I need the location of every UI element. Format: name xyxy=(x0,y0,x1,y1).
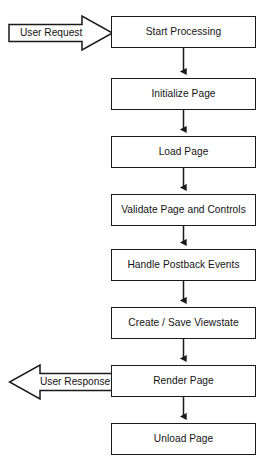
user-request-arrow: User Request xyxy=(8,14,114,52)
node-label: Start Processing xyxy=(146,27,222,37)
user-request-label: User Request xyxy=(20,28,82,38)
flowchart-diagram: User Request User Response Start Process… xyxy=(0,0,270,461)
node-start-processing: Start Processing xyxy=(111,16,256,48)
node-label: Handle Postback Events xyxy=(127,260,239,270)
node-unload-page: Unload Page xyxy=(111,423,256,455)
user-response-label: User Response xyxy=(40,377,110,387)
node-handle-postback-events: Handle Postback Events xyxy=(111,249,256,281)
node-load-page: Load Page xyxy=(111,136,256,168)
node-render-page: Render Page xyxy=(111,365,256,397)
node-label: Validate Page and Controls xyxy=(121,205,246,215)
node-initialize-page: Initialize Page xyxy=(111,78,256,110)
node-label: Initialize Page xyxy=(151,89,215,99)
node-label: Load Page xyxy=(159,147,209,157)
node-validate-page-and-controls: Validate Page and Controls xyxy=(111,194,256,226)
node-label: Render Page xyxy=(153,376,214,386)
node-create-save-viewstate: Create / Save Viewstate xyxy=(111,307,256,339)
node-label: Unload Page xyxy=(154,434,213,444)
node-label: Create / Save Viewstate xyxy=(128,318,238,328)
user-response-arrow: User Response xyxy=(8,363,114,401)
